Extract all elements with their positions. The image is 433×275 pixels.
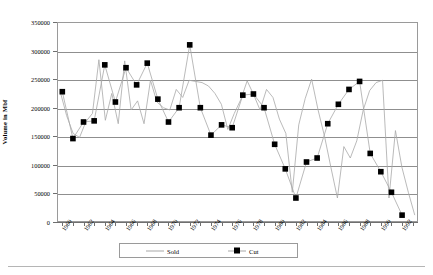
series-layer [57, 22, 418, 222]
data-point-cut [389, 189, 395, 195]
data-point-cut [219, 122, 225, 128]
data-point-cut [91, 118, 97, 124]
chart-legend: Sold Cut [119, 243, 298, 258]
x-tick-mark [285, 222, 286, 226]
x-tick-mark [243, 222, 244, 226]
chart-container: 0500001000001500002000002500003000003500… [0, 0, 433, 275]
y-axis-labels: 0500001000001500002000002500003000003500… [0, 0, 57, 275]
data-point-cut [166, 119, 172, 125]
x-tick-mark [200, 222, 201, 226]
data-point-cut [325, 121, 331, 127]
bottom-divider [8, 266, 425, 267]
data-point-cut [378, 169, 384, 175]
x-tick-mark [222, 222, 223, 226]
data-point-cut [187, 42, 193, 48]
data-point-cut [314, 155, 320, 161]
x-tick-mark [328, 222, 329, 226]
data-point-cut [346, 87, 352, 93]
legend-item-sold: Sold [146, 247, 179, 254]
y-axis-title: Volume in Mbf [1, 100, 8, 145]
data-point-cut [102, 62, 108, 68]
legend-item-cut: Cut [228, 247, 259, 254]
data-point-cut [155, 96, 161, 102]
data-point-cut [240, 92, 246, 98]
data-point-cut [272, 141, 278, 147]
y-tick-label: 50000 [34, 190, 50, 197]
y-axis-title-holder: Volume in Mbf [10, 22, 24, 222]
data-point-cut [357, 79, 363, 85]
x-tick-mark [115, 222, 116, 226]
x-tick-mark [391, 222, 392, 226]
legend-label-cut: Cut [249, 247, 259, 254]
data-point-cut [251, 91, 257, 97]
data-point-cut [367, 151, 373, 157]
x-tick-mark [158, 222, 159, 226]
data-point-cut [81, 119, 87, 125]
legend-label-sold: Sold [167, 247, 179, 254]
data-point-cut [113, 99, 119, 105]
x-tick-mark [264, 222, 265, 226]
y-tick-label: 100000 [31, 161, 50, 168]
x-tick-mark [349, 222, 350, 226]
data-point-cut [399, 212, 405, 218]
x-tick-mark [73, 222, 74, 226]
data-point-cut [198, 105, 204, 111]
y-tick-label: 150000 [31, 133, 50, 140]
y-tick-label: 250000 [31, 76, 50, 83]
data-point-cut [60, 89, 66, 95]
legend-line-icon [146, 247, 164, 254]
data-point-cut [123, 65, 129, 71]
x-tick-mark [413, 222, 414, 226]
data-point-cut [304, 159, 310, 165]
data-point-cut [176, 105, 182, 111]
data-point-cut [261, 105, 267, 111]
data-point-cut [336, 101, 342, 107]
x-tick-mark [137, 222, 138, 226]
y-tick-label: 350000 [31, 19, 50, 26]
x-tick-mark [307, 222, 308, 226]
data-point-cut [70, 136, 76, 142]
y-tick-label: 0 [47, 219, 50, 226]
data-point-cut [144, 60, 150, 66]
data-point-cut [208, 132, 214, 138]
data-point-cut [282, 166, 288, 172]
y-tick-label: 200000 [31, 104, 50, 111]
legend-marker-icon [228, 247, 246, 254]
x-tick-mark [370, 222, 371, 226]
data-point-cut [229, 125, 235, 131]
data-point-cut [134, 82, 140, 88]
y-tick-label: 300000 [31, 47, 50, 54]
x-tick-mark [179, 222, 180, 226]
data-point-cut [293, 195, 299, 201]
